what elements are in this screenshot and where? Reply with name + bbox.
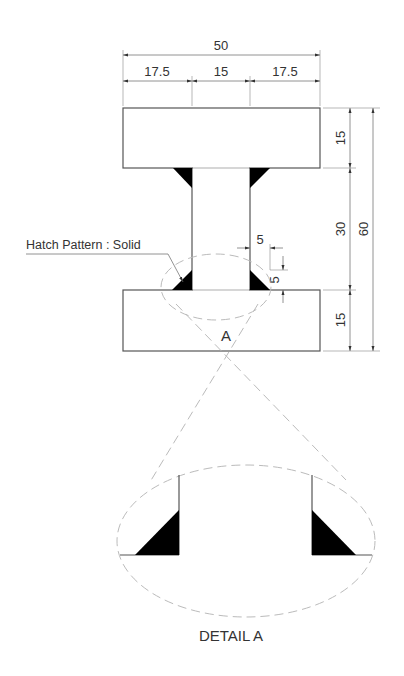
detail-a-view	[117, 465, 375, 617]
weld-top-right	[250, 168, 270, 188]
dim-overall-height: 60	[356, 222, 371, 236]
dim-left-overhang: 17.5	[144, 64, 169, 79]
hatch-annotation: Hatch Pattern : Solid	[26, 238, 183, 282]
projection-line-left	[150, 304, 258, 482]
detail-weld-left	[135, 510, 179, 555]
dim-web-height: 30	[333, 222, 348, 236]
hatch-leader-line	[26, 254, 183, 282]
i-beam-section	[123, 108, 320, 351]
fillet-dimensions: 5 5	[237, 232, 288, 303]
top-flange	[123, 108, 320, 168]
dim-right-overhang: 17.5	[272, 64, 297, 79]
dim-top-flange-thickness: 15	[333, 131, 348, 145]
dim-bottom-flange-thickness: 15	[333, 313, 348, 327]
technical-drawing: 50 17.5 15 17.5 15 30 15 60 5 5 Hatch Pa…	[0, 0, 404, 676]
dim-overall-width: 50	[214, 38, 228, 53]
dim-web-width: 15	[214, 64, 228, 79]
detail-weld-right	[312, 510, 356, 555]
weld-top-left	[173, 168, 192, 188]
hatch-pattern-label: Hatch Pattern : Solid	[26, 238, 141, 252]
dim-fillet-horizontal: 5	[256, 232, 263, 247]
detail-title: DETAIL A	[199, 627, 263, 644]
right-dimensions: 15 30 15 60	[323, 108, 380, 351]
detail-marker-label: A	[221, 327, 231, 344]
top-dimensions: 50 17.5 15 17.5	[123, 38, 320, 106]
